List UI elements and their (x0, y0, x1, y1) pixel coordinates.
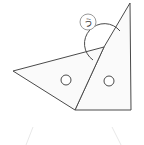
geometry-diagram: う (0, 0, 144, 145)
hole-right-circle (104, 76, 114, 86)
angle-label-u: う (84, 18, 93, 28)
faint-mark-left (26, 127, 33, 145)
hole-left-circle (61, 75, 71, 85)
faint-mark-right (112, 127, 121, 145)
figure-canvas: う (0, 0, 144, 145)
